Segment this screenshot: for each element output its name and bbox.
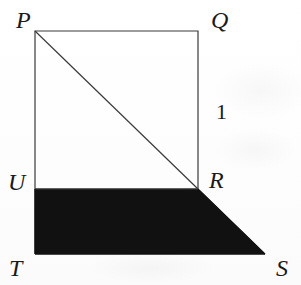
vertex-label-T: T	[9, 256, 22, 280]
vertex-label-U: U	[8, 170, 25, 194]
vertex-label-P: P	[16, 8, 31, 32]
shaded-trapezoid-URST	[35, 189, 265, 254]
vertex-label-S: S	[276, 256, 288, 280]
diagonal-PR	[35, 31, 198, 189]
geometry-figure: P Q 1 U R T S	[0, 0, 301, 285]
side-length-label: 1	[216, 101, 227, 123]
vertex-label-R: R	[209, 168, 224, 192]
figure-canvas	[0, 0, 301, 285]
vertex-label-Q: Q	[211, 8, 228, 32]
